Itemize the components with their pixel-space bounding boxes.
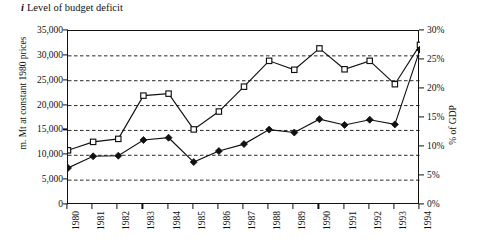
series-layer bbox=[68, 42, 420, 171]
data-point-square bbox=[292, 67, 297, 72]
x-axis-tick-label: 1988 bbox=[272, 211, 282, 230]
chart-title-text: Level of budget deficit bbox=[27, 2, 123, 13]
x-axis-tick-mark bbox=[268, 204, 269, 209]
y-axis-right-tick-mark bbox=[419, 58, 424, 59]
y-axis-left-tick-mark bbox=[63, 179, 68, 180]
x-axis-tick-mark bbox=[343, 204, 344, 209]
y-axis-right-tick-mark bbox=[419, 29, 424, 30]
data-point-square bbox=[342, 67, 347, 72]
data-point-square bbox=[392, 81, 397, 86]
data-point-square bbox=[317, 46, 322, 51]
x-axis-tick-mark bbox=[242, 204, 243, 209]
chart-index-label: i bbox=[21, 2, 24, 13]
x-axis-tick-mark bbox=[318, 204, 319, 209]
x-axis-tick-mark bbox=[293, 204, 294, 209]
data-point-square bbox=[216, 109, 221, 114]
y-axis-right-tick-label: 20% bbox=[427, 83, 473, 93]
y-axis-right-tick-mark bbox=[419, 87, 424, 88]
data-point-square bbox=[367, 58, 372, 63]
data-point-square bbox=[266, 58, 271, 63]
y-axis-right-tick-mark bbox=[419, 203, 424, 204]
y-axis-left-tick-mark bbox=[63, 29, 68, 30]
y-axis-right-tick-label: 10% bbox=[427, 141, 473, 151]
data-point-square bbox=[141, 93, 146, 98]
x-axis-tick-label: 1984 bbox=[172, 211, 182, 230]
data-point-diamond bbox=[341, 121, 348, 128]
data-point-diamond bbox=[115, 152, 122, 159]
data-point-square bbox=[90, 139, 95, 144]
y-axis-left-tick-label: 20,000 bbox=[3, 100, 63, 110]
chart-title: iLevel of budget deficit bbox=[21, 2, 123, 14]
x-axis-tick-mark bbox=[217, 204, 218, 209]
y-axis-left-tick-mark bbox=[63, 129, 68, 130]
x-axis-tick-label: 1992 bbox=[373, 211, 383, 230]
y-axis-right-tick-label: 15% bbox=[427, 112, 473, 122]
series-line-1 bbox=[68, 50, 420, 168]
x-axis-tick-label: 1989 bbox=[297, 211, 307, 230]
y-axis-right-label: % of GDP bbox=[448, 80, 458, 170]
x-axis-tick-label: 1985 bbox=[197, 211, 207, 230]
y-axis-left-tick-mark bbox=[63, 154, 68, 155]
x-axis-tick-mark bbox=[92, 204, 93, 209]
y-axis-left-tick-mark bbox=[63, 79, 68, 80]
data-point-diamond bbox=[140, 137, 147, 144]
data-point-square bbox=[68, 148, 71, 153]
data-point-square bbox=[116, 136, 121, 141]
x-axis-tick-label: 1983 bbox=[146, 211, 156, 230]
data-point-diamond bbox=[266, 126, 273, 133]
x-axis-tick-mark bbox=[66, 204, 67, 209]
data-point-diamond bbox=[215, 148, 222, 155]
x-axis-tick-mark bbox=[368, 204, 369, 209]
y-axis-right-tick-label: 5% bbox=[427, 170, 473, 180]
x-axis-tick-label: 1980 bbox=[71, 211, 81, 230]
y-axis-left-tick-label: 5,000 bbox=[3, 174, 63, 184]
x-axis-tick-mark bbox=[117, 204, 118, 209]
y-axis-right-tick-mark bbox=[419, 174, 424, 175]
x-axis-tick-mark bbox=[418, 204, 419, 209]
y-axis-left-tick-mark bbox=[63, 104, 68, 105]
y-axis-left-tick-label: 10,000 bbox=[3, 149, 63, 159]
y-axis-left-tick-mark bbox=[63, 54, 68, 55]
data-point-square bbox=[166, 91, 171, 96]
x-axis-tick-label: 1987 bbox=[247, 211, 257, 230]
plot-area bbox=[67, 30, 419, 204]
x-axis-tick-label: 1991 bbox=[348, 211, 358, 230]
y-axis-left-tick-label: 30,000 bbox=[3, 50, 63, 60]
gridlines bbox=[68, 56, 420, 180]
data-point-diamond bbox=[90, 153, 97, 160]
data-point-diamond bbox=[366, 116, 373, 123]
y-axis-left-tick-label: 25,000 bbox=[3, 75, 63, 85]
figure-budget-deficit: iLevel of budget deficit m. Mt at consta… bbox=[0, 0, 490, 243]
y-axis-right-tick-label: 30% bbox=[427, 25, 473, 35]
x-axis-tick-label: 1982 bbox=[121, 211, 131, 230]
x-axis-tick-label: 1981 bbox=[96, 211, 106, 230]
x-axis-tick-label: 1993 bbox=[398, 211, 408, 230]
y-axis-left-tick-label: 35,000 bbox=[3, 25, 63, 35]
data-point-diamond bbox=[241, 141, 248, 148]
x-axis-tick-mark bbox=[192, 204, 193, 209]
data-point-diamond bbox=[391, 121, 398, 128]
x-axis-tick-mark bbox=[167, 204, 168, 209]
data-point-diamond bbox=[316, 116, 323, 123]
x-axis-tick-label: 1994 bbox=[423, 211, 433, 230]
y-axis-left-tick-label: 0 bbox=[3, 199, 63, 209]
chart-svg bbox=[68, 31, 420, 205]
y-axis-right-tick-label: 25% bbox=[427, 54, 473, 64]
data-point-diamond bbox=[68, 164, 72, 171]
y-axis-right-tick-mark bbox=[419, 116, 424, 117]
y-axis-left-tick-label: 15,000 bbox=[3, 124, 63, 134]
x-axis-tick-label: 1990 bbox=[322, 211, 332, 230]
y-axis-right-tick-mark bbox=[419, 145, 424, 146]
x-axis-tick-mark bbox=[393, 204, 394, 209]
y-axis-right-tick-label: 0% bbox=[427, 199, 473, 209]
data-point-square bbox=[241, 84, 246, 89]
x-axis-tick-label: 1986 bbox=[222, 211, 232, 230]
data-point-square bbox=[191, 127, 196, 132]
x-axis-tick-mark bbox=[142, 204, 143, 209]
